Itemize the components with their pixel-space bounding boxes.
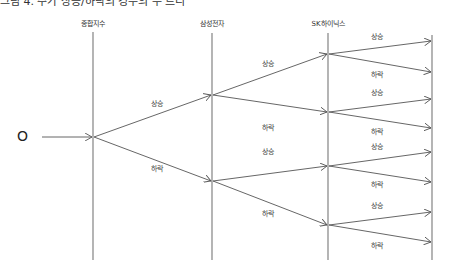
arrow-l3-7 bbox=[329, 212, 431, 225]
branch-label-l2-2: 하락 bbox=[262, 122, 274, 132]
arrow-l3-3 bbox=[329, 99, 431, 112]
branch-label-l3-6: 하락 bbox=[371, 179, 383, 189]
branch-label-l2-3: 상승 bbox=[262, 146, 274, 156]
arrow-l2-down-up bbox=[213, 166, 327, 181]
branch-label-l3-4: 하락 bbox=[371, 126, 383, 136]
branch-label-l3-7: 상승 bbox=[371, 200, 383, 210]
arrow-l1-down bbox=[94, 137, 211, 181]
tree-diagram bbox=[0, 0, 449, 274]
arrow-l2-down-down bbox=[213, 181, 327, 225]
branch-label-l3-5: 상승 bbox=[371, 141, 383, 151]
branch-label-l2-4: 하락 bbox=[262, 208, 274, 218]
branch-label-l2-1: 상승 bbox=[262, 58, 274, 68]
branch-label-l1-down: 하락 bbox=[151, 163, 163, 173]
arrow-l3-1 bbox=[329, 41, 431, 54]
arrow-l3-5 bbox=[329, 152, 431, 166]
branch-label-l3-3: 상승 bbox=[371, 87, 383, 97]
branch-label-l3-1: 상승 bbox=[371, 31, 383, 41]
branch-label-l3-2: 하락 bbox=[371, 69, 383, 79]
arrow-l2-up-down bbox=[213, 95, 327, 112]
branch-label-l3-8: 하락 bbox=[371, 240, 383, 250]
branch-label-l1-up: 상승 bbox=[151, 98, 163, 108]
